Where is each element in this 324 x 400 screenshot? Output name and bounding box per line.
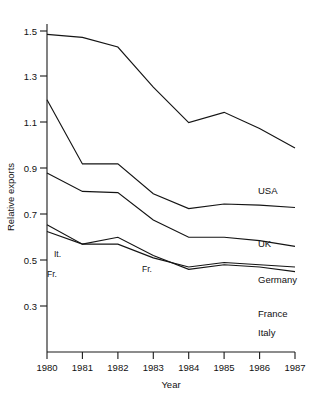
y-axis-title: Relative exports	[5, 163, 16, 231]
line-chart: 1.5 1.3 1.1 0.9 0.7 0.5 0.3 1980 1981 19…	[0, 0, 324, 400]
y-tick-label: 1.5	[24, 26, 37, 37]
series-label-germany: Germany	[258, 274, 297, 285]
y-tick-label: 0.9	[24, 163, 37, 174]
x-axis-tick-labels: 1980 1981 1982 1983 1984 1985 1986 1987	[36, 362, 305, 373]
y-axis-ticks	[40, 31, 47, 306]
y-tick-label: 0.5	[24, 255, 37, 266]
y-tick-label: 1.1	[24, 117, 37, 128]
y-tick-label: 0.7	[24, 209, 37, 220]
series-line-france	[47, 232, 295, 268]
series-lines	[47, 34, 295, 271]
series-label-italy: Italy	[258, 327, 276, 338]
y-axis-tick-labels: 1.5 1.3 1.1 0.9 0.7 0.5 0.3	[24, 26, 37, 312]
x-tick-label: 1982	[107, 362, 128, 373]
x-tick-label: 1981	[72, 362, 93, 373]
x-tick-label: 1986	[249, 362, 270, 373]
annotation-italy-short: It.	[54, 249, 61, 259]
x-tick-label: 1984	[178, 362, 199, 373]
x-tick-label: 1985	[214, 362, 235, 373]
annotation-france-short-mid: Fr.	[142, 264, 152, 274]
y-tick-label: 0.3	[24, 301, 37, 312]
x-tick-label: 1983	[143, 362, 164, 373]
annotation-france-short-left: Fr.	[47, 269, 57, 279]
x-tick-label: 1987	[284, 362, 305, 373]
series-label-france: France	[258, 308, 288, 319]
series-label-uk: UK	[258, 238, 272, 249]
series-label-usa: USA	[258, 185, 278, 196]
x-axis-title: Year	[161, 379, 180, 390]
series-line-usa	[47, 34, 295, 147]
y-tick-label: 1.3	[24, 71, 37, 82]
x-tick-label: 1980	[36, 362, 57, 373]
chart-plot-area: 1.5 1.3 1.1 0.9 0.7 0.5 0.3 1980 1981 19…	[0, 0, 324, 400]
x-axis-ticks	[47, 352, 295, 359]
